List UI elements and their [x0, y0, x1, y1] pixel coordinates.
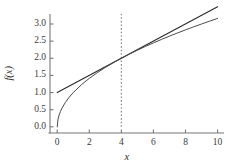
x-tick-label: 6 — [141, 138, 165, 148]
sqrt-curve-series — [57, 18, 217, 126]
y-tick-label: 0.0 — [14, 122, 46, 132]
y-tick-label: 0.5 — [14, 105, 46, 115]
y-tick-label: 1.5 — [14, 70, 46, 80]
x-tick-label: 0 — [45, 138, 69, 148]
x-axis-title: x — [125, 152, 130, 163]
figure-canvas: 0.00.51.01.52.02.53.0 0246810 f(x) x — [0, 0, 227, 168]
y-tick-label: 2.5 — [14, 36, 46, 46]
x-tick-label: 2 — [77, 138, 101, 148]
y-axis-title: f(x) — [4, 58, 15, 88]
y-tick-label: 1.0 — [14, 88, 46, 98]
x-tick-label: 4 — [109, 138, 133, 148]
y-tick-label: 3.0 — [14, 19, 46, 29]
x-tick-label: 10 — [206, 138, 227, 148]
y-tick-label: 2.0 — [14, 53, 46, 63]
x-tick-label: 8 — [174, 138, 198, 148]
